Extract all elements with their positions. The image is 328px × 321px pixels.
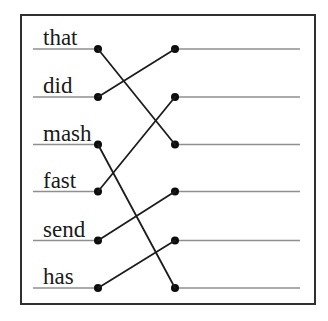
matching-diagram: that did mash fast send has bbox=[0, 0, 328, 321]
answer-slot-4 bbox=[171, 188, 300, 196]
connection-line-fast bbox=[98, 97, 175, 192]
answer-slot-2 bbox=[171, 93, 300, 101]
word-label: did bbox=[43, 73, 73, 98]
connection-line-did bbox=[98, 49, 175, 97]
answer-slot-3 bbox=[171, 141, 300, 149]
answer-slot-1 bbox=[171, 45, 300, 53]
left-item-mash: mash bbox=[33, 121, 102, 149]
connection-line-send bbox=[98, 192, 175, 241]
connection-line-that bbox=[98, 49, 175, 145]
word-label: fast bbox=[43, 168, 77, 193]
left-item-that: that bbox=[33, 25, 102, 53]
left-item-has: has bbox=[33, 264, 102, 292]
left-item-did: did bbox=[33, 73, 102, 101]
left-item-fast: fast bbox=[33, 168, 102, 196]
connections-layer bbox=[98, 49, 175, 288]
word-label: send bbox=[43, 217, 86, 242]
word-label: has bbox=[43, 264, 74, 289]
worksheet: that did mash fast send has bbox=[0, 0, 328, 321]
diagram-border bbox=[21, 15, 315, 304]
answer-slot-5 bbox=[171, 237, 300, 245]
answer-slot-6 bbox=[171, 284, 300, 292]
left-item-send: send bbox=[33, 217, 102, 245]
word-label: mash bbox=[43, 121, 92, 146]
connection-line-has bbox=[98, 241, 175, 289]
word-label: that bbox=[43, 25, 78, 50]
